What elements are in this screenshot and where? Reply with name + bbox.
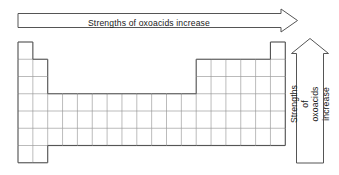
horizontal-arrow-label: Strengths of oxoacids increase — [18, 14, 280, 32]
vertical-arrow-label: Strengths of oxoacidsincrease — [297, 52, 323, 156]
vertical-arrow-label-text: Strengths of oxoacidsincrease — [289, 85, 331, 123]
vertical-arrow-label-line-1: Strengths of oxoacids — [289, 85, 320, 123]
vertical-arrow-label-line-2: increase — [321, 87, 331, 121]
periodic-table-gridlines — [18, 59, 285, 163]
diagram-canvas: Strengths of oxoacids increase Strengths… — [0, 0, 339, 175]
